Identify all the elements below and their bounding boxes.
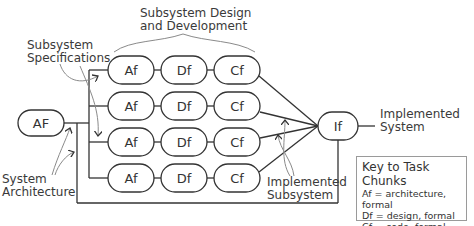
cf-label: Cf <box>230 135 244 150</box>
label-line: Specifications <box>27 52 110 65</box>
legend-item: Cf = code, formal <box>362 221 461 226</box>
cf-label: Cf <box>230 99 244 114</box>
af-label: Af <box>124 171 137 186</box>
label-line: and Development <box>140 20 251 33</box>
label-line: System <box>380 121 460 134</box>
cf-label: Cf <box>230 63 244 78</box>
af-label: Af <box>124 63 137 78</box>
label-line: Architecture <box>2 186 75 199</box>
system-node-label: AF <box>33 116 49 131</box>
df-label: Df <box>177 63 192 78</box>
df-label: Df <box>177 99 192 114</box>
integration-node-label: If <box>334 119 343 134</box>
subsystem-design-label: Subsystem Design and Development <box>140 7 251 33</box>
implemented-subsystem-label: Implemented Subsystem <box>267 176 347 202</box>
af-label: Af <box>124 99 137 114</box>
label-line: Subsystem <box>267 189 347 202</box>
af-label: Af <box>124 135 137 150</box>
df-label: Df <box>177 171 192 186</box>
implemented-system-label: Implemented System <box>380 108 460 134</box>
system-architecture-label: System Architecture <box>2 173 75 199</box>
df-label: Df <box>177 135 192 150</box>
legend-item: Af = architecture, formal <box>362 188 461 210</box>
cf-label: Cf <box>230 171 244 186</box>
legend-title: Key to Task Chunks <box>362 160 461 188</box>
subsystem-specifications-label: Subsystem Specifications <box>27 39 110 65</box>
legend-item: Df = design, formal <box>362 210 461 221</box>
legend-key: Key to Task Chunks Af = architecture, fo… <box>356 156 467 221</box>
